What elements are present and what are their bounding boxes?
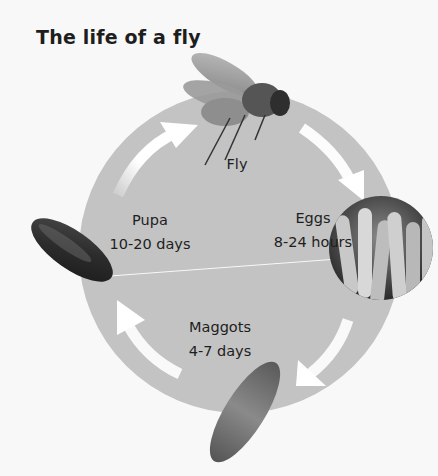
stage-duration: 4-7 days xyxy=(175,339,265,363)
stage-label-eggs: Eggs 8-24 hours xyxy=(258,206,368,254)
stage-name: Pupa xyxy=(100,208,200,232)
stage-label-maggots: Maggots 4-7 days xyxy=(175,315,265,363)
stage-duration: 8-24 hours xyxy=(258,230,368,254)
stage-name: Maggots xyxy=(175,315,265,339)
life-cycle-diagram xyxy=(0,0,438,476)
stage-label-pupa: Pupa 10-20 days xyxy=(100,208,200,256)
stage-duration: 10-20 days xyxy=(100,232,200,256)
stage-label-fly: Fly xyxy=(217,152,257,176)
stage-name: Fly xyxy=(217,152,257,176)
stage-name: Eggs xyxy=(258,206,368,230)
